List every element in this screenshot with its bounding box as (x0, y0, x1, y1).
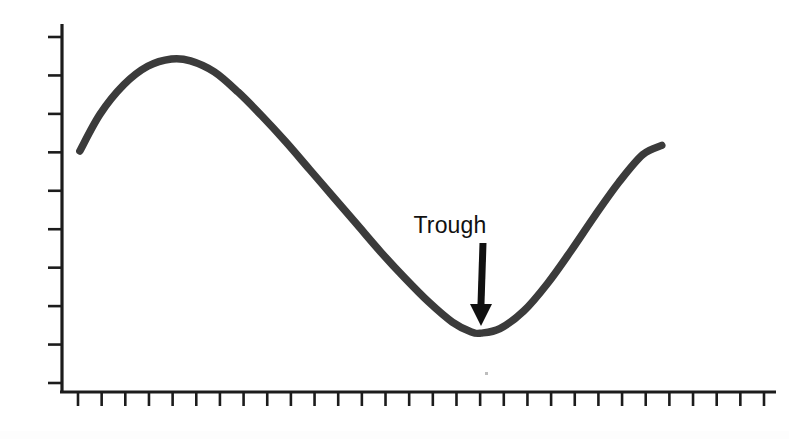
chart-figure: Trough (0, 0, 789, 439)
trough-label: Trough (413, 212, 486, 238)
bottom-edge-artifact (0, 431, 789, 439)
y-axis-ticks (48, 37, 62, 383)
x-axis-ticks (78, 392, 764, 406)
business-cycle-chart: Trough (0, 0, 789, 439)
trough-arrow-head (470, 304, 492, 326)
page-speck (485, 372, 488, 375)
trough-arrow-shaft (481, 243, 483, 304)
trough-annotation: Trough (413, 212, 492, 326)
business-cycle-curve (80, 59, 662, 334)
